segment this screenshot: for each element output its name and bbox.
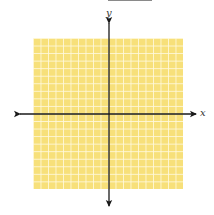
axes — [0, 0, 214, 215]
y-axis-label: y — [106, 8, 112, 18]
x-axis-label: x — [200, 108, 206, 118]
